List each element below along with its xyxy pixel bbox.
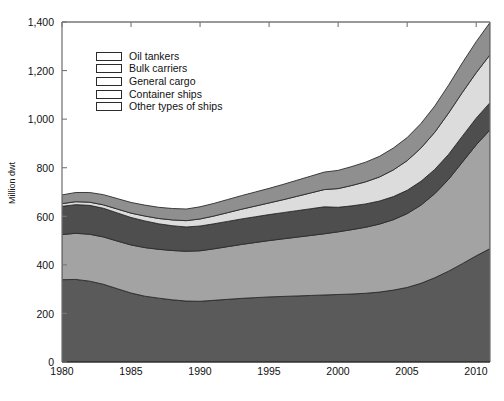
- x-tick-label: 1980: [40, 366, 84, 377]
- y-tick-label: 400: [14, 260, 54, 270]
- stacked-area-chart: Million dwt 1,400 1,200 1,000 800 600 40…: [0, 0, 504, 401]
- legend-label: Oil tankers: [129, 51, 179, 62]
- x-tick-label: 1985: [109, 366, 153, 377]
- legend-swatch-icon: [96, 102, 122, 111]
- x-tick-label: 1990: [178, 366, 222, 377]
- legend-item-general-cargo: General cargo: [96, 75, 222, 88]
- legend-item-oil-tankers: Oil tankers: [96, 50, 222, 63]
- x-tick-label: 1995: [247, 366, 291, 377]
- y-tick-label: 1,200: [14, 66, 54, 76]
- legend-label: Bulk carriers: [129, 63, 187, 74]
- legend-swatch-icon: [96, 77, 122, 86]
- y-tick-label: 800: [14, 163, 54, 173]
- legend-label: General cargo: [129, 76, 196, 87]
- legend-swatch-icon: [96, 52, 122, 61]
- legend-swatch-icon: [96, 90, 122, 99]
- legend-item-other-types: Other types of ships: [96, 100, 222, 113]
- legend-swatch-icon: [96, 64, 122, 73]
- legend-item-container-ships: Container ships: [96, 88, 222, 101]
- chart-legend: Oil tankers Bulk carriers General cargo …: [96, 50, 222, 113]
- y-tick-label: 1,400: [14, 17, 54, 27]
- y-tick-label: 200: [14, 309, 54, 319]
- legend-item-bulk-carriers: Bulk carriers: [96, 63, 222, 76]
- x-tick-label: 2010: [454, 366, 498, 377]
- legend-label: Other types of ships: [129, 101, 222, 112]
- y-tick-label: 600: [14, 212, 54, 222]
- x-tick-label: 2005: [385, 366, 429, 377]
- legend-label: Container ships: [129, 89, 202, 100]
- plot-area: [0, 0, 504, 401]
- y-tick-label: 1,000: [14, 114, 54, 124]
- x-tick-label: 2000: [316, 366, 360, 377]
